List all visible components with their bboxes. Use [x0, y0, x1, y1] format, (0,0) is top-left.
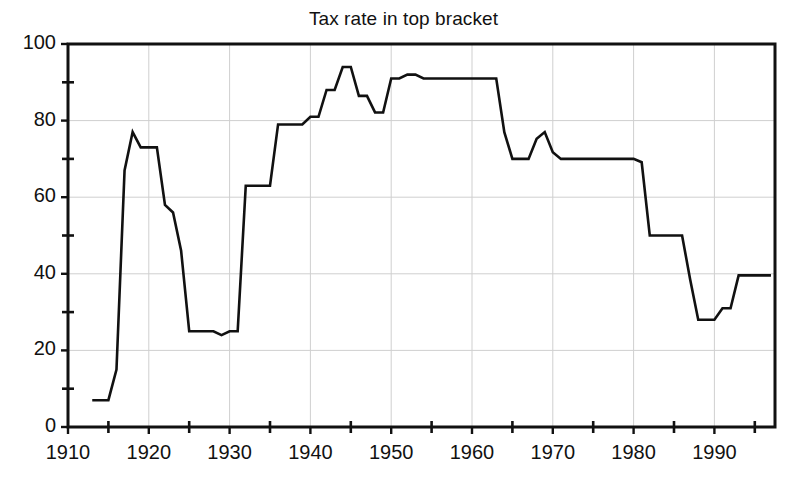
- tick-marks-group: [61, 44, 755, 434]
- y-axis-label: 0: [45, 414, 56, 437]
- x-axis-label: 1980: [594, 441, 674, 464]
- chart-figure: Tax rate in top bracket 020406080100 191…: [0, 0, 807, 484]
- y-axis-label: 80: [34, 108, 56, 131]
- y-axis-label: 20: [34, 337, 56, 360]
- x-axis-label: 1990: [674, 441, 754, 464]
- y-axis-label: 40: [34, 261, 56, 284]
- y-axis-label: 60: [34, 184, 56, 207]
- x-axis-label: 1930: [190, 441, 270, 464]
- x-axis-label: 1910: [28, 441, 108, 464]
- x-axis-label: 1960: [432, 441, 512, 464]
- x-axis-label: 1950: [351, 441, 431, 464]
- x-axis-label: 1970: [513, 441, 593, 464]
- x-axis-label: 1920: [109, 441, 189, 464]
- plot-area: [0, 0, 807, 484]
- y-axis-label: 100: [23, 31, 56, 54]
- x-axis-label: 1940: [270, 441, 350, 464]
